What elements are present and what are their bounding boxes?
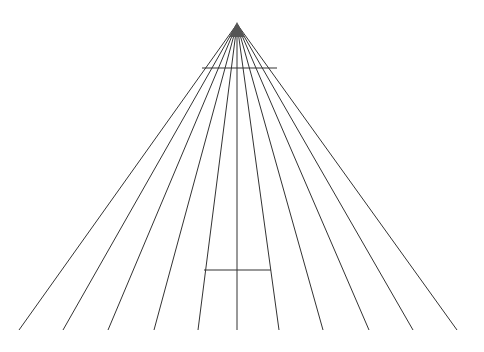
ponzo-diagram bbox=[0, 0, 484, 352]
background bbox=[0, 0, 484, 352]
